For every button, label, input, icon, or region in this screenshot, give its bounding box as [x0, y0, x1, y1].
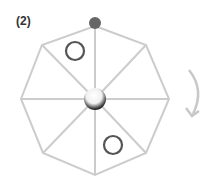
top-dot-icon [89, 17, 101, 29]
clockwise-arrow-icon [186, 70, 199, 116]
center-hub-icon [84, 88, 106, 110]
hollow-circle-lower-right [104, 136, 122, 154]
hollow-circle-upper-left [66, 42, 84, 60]
octagon-diagram [0, 0, 214, 181]
